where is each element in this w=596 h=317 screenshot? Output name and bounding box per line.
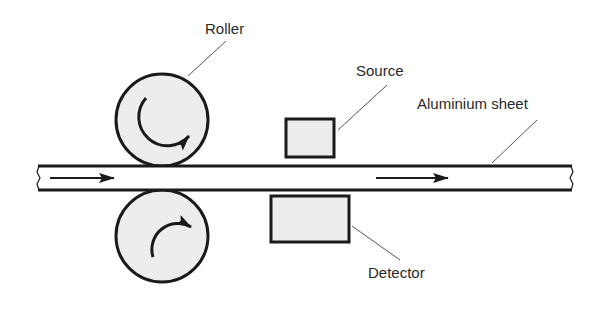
diagram-svg xyxy=(0,0,596,317)
detector-label: Detector xyxy=(368,264,425,281)
sheet-label: Aluminium sheet xyxy=(417,95,528,112)
aluminium-sheet xyxy=(37,166,573,190)
roller-label: Roller xyxy=(205,20,244,37)
sheet-leader xyxy=(492,120,537,163)
roller-leader xyxy=(188,41,226,76)
source-box xyxy=(286,119,334,157)
detector-leader xyxy=(352,226,400,260)
top-roller xyxy=(116,74,208,166)
detector-box xyxy=(271,196,349,242)
source-leader xyxy=(338,85,387,130)
diagram-canvas: Roller Source Aluminium sheet Detector xyxy=(0,0,596,317)
source-label: Source xyxy=(356,62,404,79)
bottom-roller xyxy=(116,190,208,282)
